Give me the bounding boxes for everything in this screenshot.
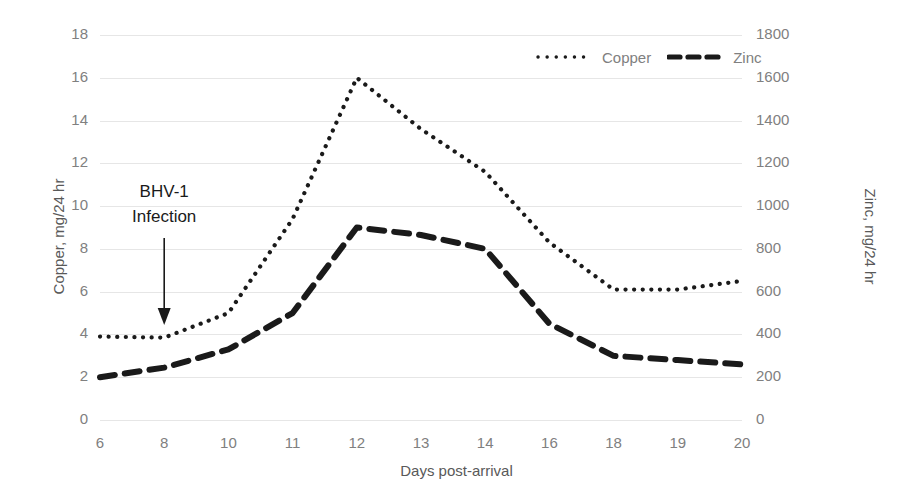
series-line-zinc — [100, 228, 742, 378]
chart-container: Copper, mg/24 hr Zinc, mg/24 hr Days pos… — [0, 0, 913, 500]
legend-item-copper: Copper — [536, 49, 651, 66]
dotted-line-icon — [536, 51, 594, 63]
legend-label-copper: Copper — [602, 49, 651, 66]
legend-label-zinc: Zinc — [733, 49, 761, 66]
dashed-line-icon — [667, 51, 725, 63]
plot-area — [0, 0, 913, 500]
bhv-1-infection-annotation: BHV-1 Infection — [89, 180, 239, 229]
legend-item-zinc: Zinc — [667, 49, 761, 66]
chart-legend: Copper Zinc — [536, 45, 762, 69]
annotation-line-2: Infection — [89, 205, 239, 230]
annotation-line-1: BHV-1 — [89, 180, 239, 205]
annotation-arrow-head — [158, 308, 171, 325]
